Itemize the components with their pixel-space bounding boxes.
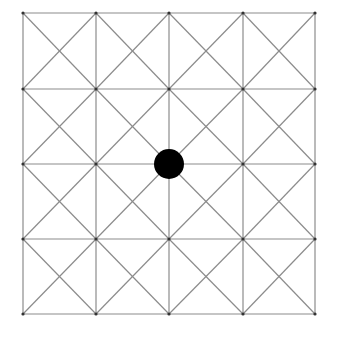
board-intersection[interactable] [313, 162, 316, 165]
board-intersection[interactable] [167, 87, 170, 90]
board-intersection[interactable] [94, 237, 97, 240]
black-piece[interactable] [154, 149, 184, 179]
board-intersection[interactable] [21, 11, 24, 14]
board-intersection[interactable] [241, 87, 244, 90]
game-board [0, 0, 342, 341]
board-intersection[interactable] [94, 162, 97, 165]
board-intersection[interactable] [167, 312, 170, 315]
board-intersection[interactable] [313, 87, 316, 90]
board-intersection[interactable] [313, 312, 316, 315]
board-intersection[interactable] [241, 162, 244, 165]
board-intersection[interactable] [241, 237, 244, 240]
board-intersection[interactable] [241, 11, 244, 14]
board-intersection[interactable] [94, 11, 97, 14]
board-intersection[interactable] [21, 162, 24, 165]
board-intersection[interactable] [94, 87, 97, 90]
board-intersection[interactable] [21, 87, 24, 90]
board-intersection[interactable] [167, 237, 170, 240]
pieces[interactable] [154, 149, 184, 179]
board-intersection[interactable] [94, 312, 97, 315]
board-intersection[interactable] [313, 237, 316, 240]
board-intersection[interactable] [241, 312, 244, 315]
board-intersection[interactable] [21, 312, 24, 315]
board-intersection[interactable] [313, 11, 316, 14]
board-intersection[interactable] [167, 11, 170, 14]
board-intersection[interactable] [21, 237, 24, 240]
